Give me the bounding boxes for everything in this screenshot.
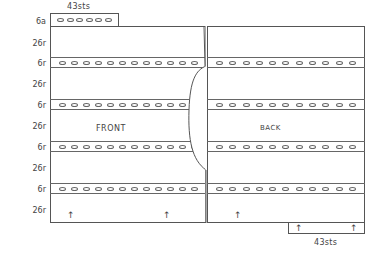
back-label: BACK xyxy=(260,124,281,132)
front-label: FRONT xyxy=(96,124,126,133)
armhole-curve xyxy=(0,0,388,255)
arrow-up-icon: ↑ xyxy=(163,211,171,220)
arrow-up-icon: ↑ xyxy=(67,211,75,220)
arrow-up-icon: ↑ xyxy=(295,224,303,233)
bottom-stitch-count-label: 43sts xyxy=(314,238,337,247)
arrow-up-icon: ↑ xyxy=(234,211,242,220)
arrow-up-icon: ↑ xyxy=(350,224,358,233)
